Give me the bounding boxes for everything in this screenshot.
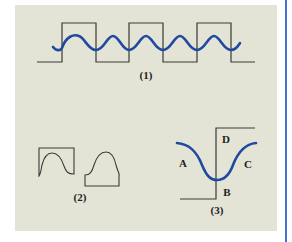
- region-label-d: D: [222, 133, 230, 145]
- region-label-a: A: [179, 157, 187, 169]
- figure-3-label: (3): [211, 204, 224, 217]
- figure-2-label: (2): [74, 191, 87, 204]
- bump-block-shape: [85, 152, 119, 186]
- region-label-c: C: [244, 158, 252, 170]
- region-label-b: B: [223, 186, 231, 198]
- sine-wave: [53, 35, 240, 50]
- diagram-canvas: (1) (2) A D C B (3): [0, 0, 292, 242]
- figure-1-label: (1): [140, 69, 153, 82]
- cutout-block-shape: [39, 148, 74, 176]
